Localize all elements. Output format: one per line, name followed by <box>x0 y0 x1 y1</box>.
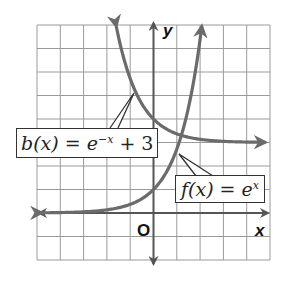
f-function-label: f(x) = ex <box>175 175 265 203</box>
b-curve <box>116 26 265 142</box>
f-label-pointer <box>179 154 213 176</box>
b-function-label: b(x) = e−x + 3 <box>16 128 158 158</box>
f-function-text: f(x) = e <box>181 178 253 200</box>
y-axis-label: y <box>163 21 172 41</box>
b-function-exponent: −x <box>98 133 113 146</box>
b-function-tail: + 3 <box>113 132 153 154</box>
x-axis-label: x <box>255 221 264 241</box>
f-function-exponent: x <box>253 179 259 192</box>
b-function-text: b(x) = e <box>21 132 98 154</box>
origin-label: O <box>137 221 150 241</box>
